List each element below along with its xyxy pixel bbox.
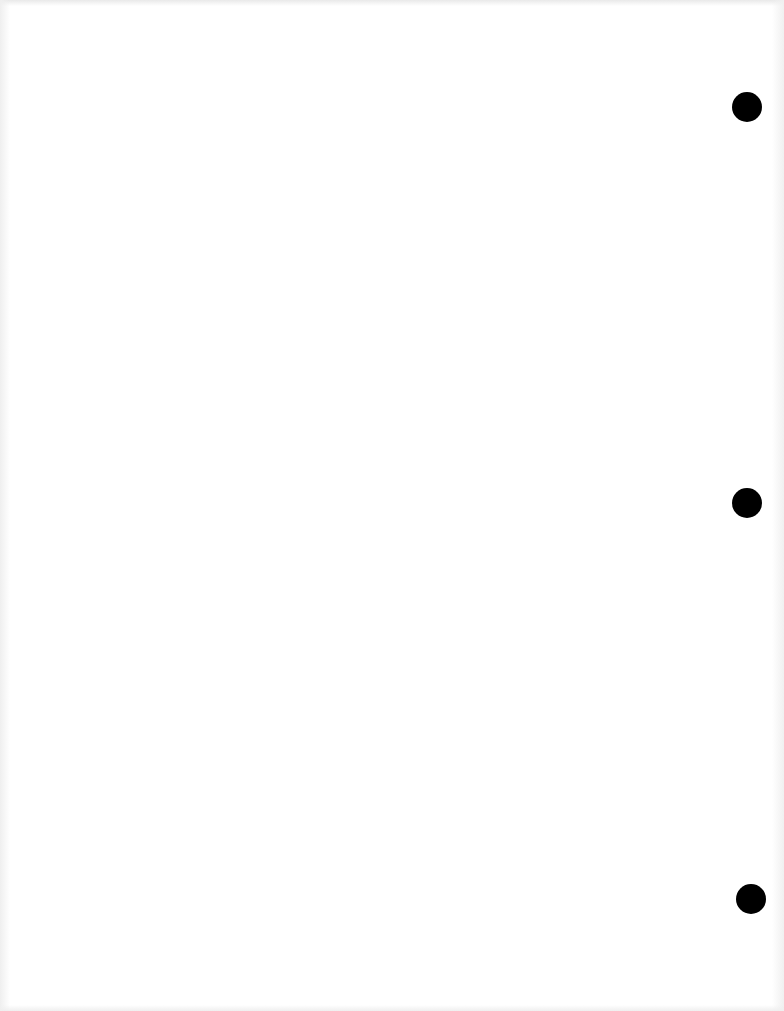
- punch-hole-bottom-icon: [736, 884, 766, 914]
- punch-hole-top-icon: [732, 92, 762, 122]
- top-edge-shadow: [0, 0, 784, 6]
- punch-hole-middle-icon: [732, 488, 762, 518]
- bottom-edge-shadow: [0, 1005, 784, 1011]
- blank-paper-sheet: [0, 0, 784, 1011]
- right-edge-shadow: [772, 0, 784, 1011]
- left-edge-shadow: [0, 0, 10, 1011]
